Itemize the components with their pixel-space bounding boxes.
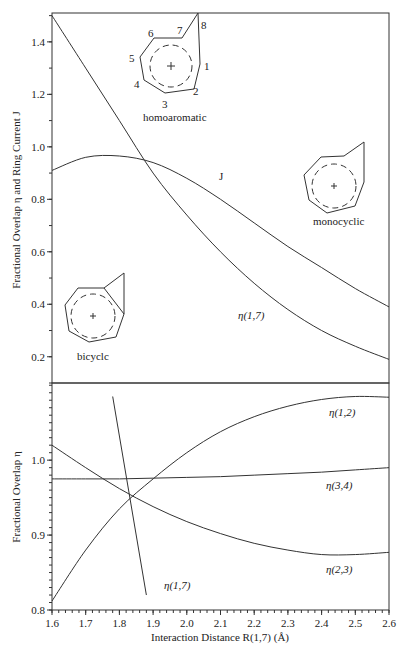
atom-label-1: 1 [204, 60, 210, 72]
top-y-tick-label: 0.2 [31, 351, 45, 363]
atom-label-2: 2 [193, 85, 199, 97]
bottom-y-axis-title: Fractional Overlap η [10, 451, 22, 543]
bottom-y-tick-label: 0.8 [31, 604, 45, 616]
axis-ticks: 0.20.40.60.81.01.21.40.80.91.01.61.71.81… [31, 16, 396, 629]
x-tick-label: 2.3 [281, 617, 295, 629]
eta12-label: η(1,2) [329, 406, 356, 419]
atom-label-5: 5 [129, 52, 135, 64]
eta17-top-label: η(1,7) [238, 309, 265, 322]
top-curve-η(1,7) [52, 16, 389, 360]
atom-label-7: 7 [177, 24, 183, 36]
figure: 0.20.40.60.81.01.21.40.80.91.01.61.71.81… [0, 0, 406, 652]
x-tick-label: 1.7 [79, 617, 93, 629]
bicyclic-label: bicyclc [77, 350, 109, 362]
plot-frames [52, 13, 389, 610]
x-axis-title: Interaction Distance R(1,7) (Å) [151, 631, 289, 644]
x-tick-label: 2.1 [214, 617, 228, 629]
monocyclic-molecule-icon [304, 142, 364, 213]
top-y-tick-label: 1.4 [31, 36, 45, 48]
top-y-tick-label: 0.4 [31, 298, 45, 310]
bottom-curve-η(2,3) [52, 445, 389, 555]
top-plot-frame [52, 13, 389, 383]
bottom-curve-η(3,4) [52, 468, 389, 479]
x-tick-label: 1.6 [45, 617, 59, 629]
x-tick-label: 2.2 [247, 617, 261, 629]
atom-label-8: 8 [201, 19, 207, 31]
bottom-y-tick-label: 1.0 [31, 454, 45, 466]
homoaromatic-label: homoaromatic [143, 111, 207, 123]
data-curves [52, 16, 389, 601]
x-tick-label: 1.9 [146, 617, 160, 629]
top-y-tick-label: 0.6 [31, 246, 45, 258]
eta34-label: η(3,4) [326, 479, 353, 492]
bicyclic-molecule-icon [65, 273, 124, 342]
atom-label-4: 4 [134, 78, 140, 90]
bottom-curve-η(1,7) [113, 397, 147, 596]
top-y-tick-label: 1.2 [31, 88, 45, 100]
eta23-label: η(2,3) [326, 563, 353, 576]
atom-label-3: 3 [162, 98, 168, 110]
atom-label-6: 6 [148, 27, 154, 39]
homoaromatic-molecule-icon [140, 13, 200, 93]
x-tick-label: 1.8 [113, 617, 127, 629]
bottom-y-tick-label: 0.9 [31, 529, 45, 541]
eta17-bottom-label: η(1,7) [164, 579, 191, 592]
x-tick-label: 2.6 [382, 617, 396, 629]
x-tick-label: 2.5 [348, 617, 362, 629]
top-y-tick-label: 1.0 [31, 141, 45, 153]
J-curve-label: J [219, 170, 224, 182]
top-y-tick-label: 0.8 [31, 193, 45, 205]
monocyclic-label: monocyclic [313, 215, 364, 227]
x-tick-label: 2.0 [180, 617, 194, 629]
top-y-axis-title: Fractional Overlap η and Ring Current J [10, 111, 22, 289]
x-tick-label: 2.4 [315, 617, 329, 629]
